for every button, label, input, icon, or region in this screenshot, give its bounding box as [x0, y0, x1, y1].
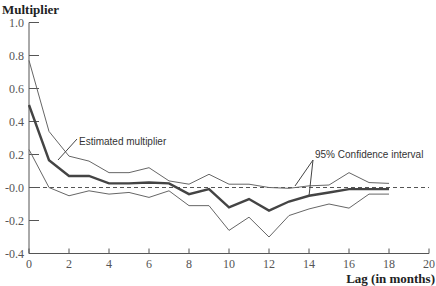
axes: 1.00.80.60.40.2-0.0-0.2-0.40246810121416…	[5, 16, 435, 272]
y-tick-label: 0.8	[9, 49, 24, 63]
x-axis-label: Lag (in months)	[346, 271, 435, 286]
x-tick-label: 20	[423, 257, 435, 271]
y-tick-label: 0.4	[9, 115, 24, 129]
x-tick-label: 6	[146, 257, 152, 271]
x-tick-label: 14	[303, 257, 315, 271]
y-tick-label: -0.4	[5, 247, 24, 261]
ci-lower-line	[29, 150, 389, 237]
y-tick-label: -0.2	[5, 214, 24, 228]
y-tick-label: 0.6	[9, 82, 24, 96]
y-tick-label: -0.0	[5, 181, 24, 195]
annotation-estimated-multiplier: Estimated multiplier	[79, 136, 167, 147]
multiplier-chart: Multiplier 1.00.80.60.40.2-0.0-0.2-0.402…	[0, 0, 436, 286]
annotation-confidence-interval: 95% Confidence interval	[315, 149, 423, 160]
x-tick-label: 4	[106, 257, 112, 271]
x-tick-label: 2	[66, 257, 72, 271]
x-tick-label: 12	[263, 257, 275, 271]
x-tick-label: 10	[223, 257, 235, 271]
x-tick-label: 8	[186, 257, 192, 271]
x-tick-label: 18	[383, 257, 395, 271]
y-tick-label: 1.0	[9, 16, 24, 30]
x-tick-label: 16	[343, 257, 355, 271]
ci-upper-line	[29, 60, 389, 188]
y-tick-label: 0.2	[9, 148, 24, 162]
x-tick-label: 0	[26, 257, 32, 271]
